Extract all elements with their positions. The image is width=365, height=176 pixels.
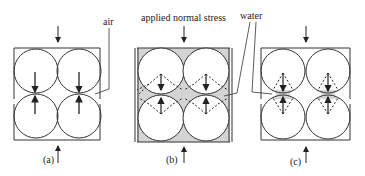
caption-a: (a) xyxy=(43,154,54,165)
air-label: air xyxy=(103,16,114,27)
diagram-canvas xyxy=(0,0,365,176)
caption-b: (b) xyxy=(166,154,178,165)
panel-c xyxy=(252,22,350,163)
applied-normal-stress-label: applied normal stress xyxy=(141,12,226,23)
panel-a xyxy=(14,26,109,163)
caption-c: (c) xyxy=(290,156,301,167)
water-label: water xyxy=(240,10,262,21)
panel-b xyxy=(135,22,250,163)
